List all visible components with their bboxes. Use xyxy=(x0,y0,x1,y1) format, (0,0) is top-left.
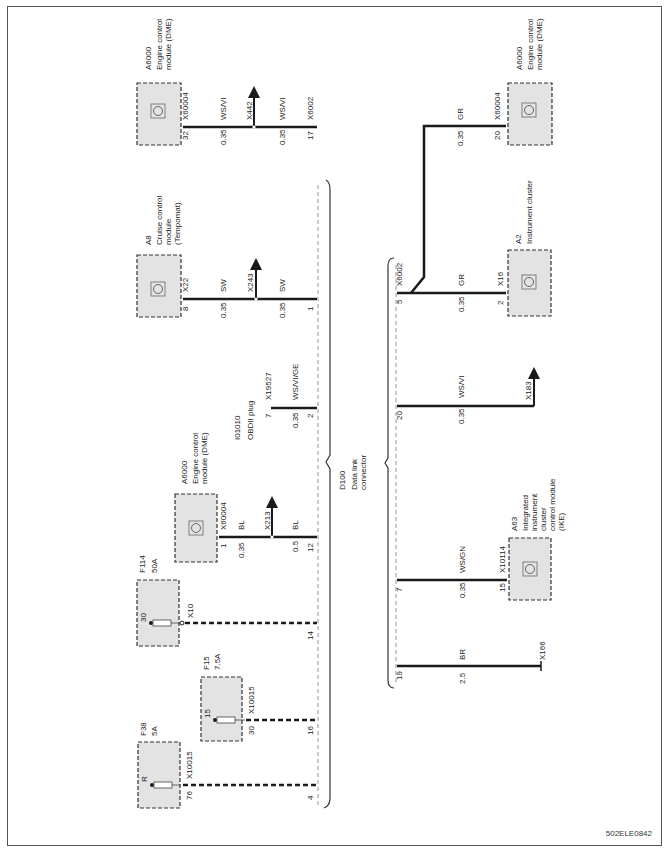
label-wire-color: WS/VI/GE xyxy=(291,364,300,400)
label-connector-name: Data link xyxy=(350,458,359,490)
label-wire-color: WS/VI xyxy=(457,375,466,398)
label-component-name: module xyxy=(164,218,173,245)
label-component-name: Instrument cluster xyxy=(525,180,534,244)
label-terminal: X166 xyxy=(538,641,547,660)
label-component-name: module (DME) xyxy=(200,432,209,484)
fuse-icon xyxy=(154,782,172,788)
figure-id: 502ELE0842 xyxy=(606,829,652,838)
label-connector: X22 xyxy=(181,277,190,292)
label-pin: 8 xyxy=(181,306,190,311)
branch-a63 xyxy=(397,538,551,600)
label-pin: 2 xyxy=(496,300,505,305)
label-connector: X60004 xyxy=(181,92,190,120)
label-bus-pin: 5 xyxy=(395,299,404,304)
label-component-name: instrument xyxy=(530,493,539,531)
branch-x166 xyxy=(397,661,541,671)
label-splice: X183 xyxy=(524,381,533,400)
label-component-name: (Tempomat) xyxy=(173,202,182,245)
label-bus-pin: 19 xyxy=(395,671,404,680)
label-bus-connector: X6002 xyxy=(306,96,315,120)
splice-point xyxy=(254,297,257,300)
wire-gr-to-a6000[interactable] xyxy=(411,126,506,293)
label-wire-color: BL xyxy=(237,520,246,530)
fuse-box-f15[interactable] xyxy=(201,677,242,741)
branch-f114 xyxy=(137,580,317,646)
label-connector: X10015 xyxy=(247,686,256,714)
label-component-id: A8 xyxy=(144,235,153,245)
label-component-name: Engine control xyxy=(191,433,200,484)
label-component-name: (IKE) xyxy=(557,512,566,531)
fuse-box-f114[interactable] xyxy=(137,580,179,646)
component-box-a8[interactable] xyxy=(137,255,181,317)
label-component-name: cluster xyxy=(539,507,548,531)
label-wire-size: 0.35 xyxy=(458,582,467,598)
label-bus-pin: 4 xyxy=(306,795,315,800)
label-connector: X10114 xyxy=(498,545,507,573)
fuse-box-f38[interactable] xyxy=(138,742,180,808)
fuse-terminal xyxy=(213,718,217,722)
label-component-name: Engine control xyxy=(526,19,535,70)
label-wire-color: SW xyxy=(219,279,228,292)
label-fuse-pin: 15 xyxy=(203,709,212,718)
label-wire-size: 0.35 xyxy=(457,408,466,424)
label-component-name: module (DME) xyxy=(535,18,544,70)
label-wire-size: 0.35 xyxy=(278,302,287,318)
label-splice: X243 xyxy=(246,273,255,292)
label-component-name: module (DME) xyxy=(164,18,173,70)
label-wire-size: 0.35 xyxy=(457,296,466,312)
label-connector: X10 xyxy=(186,603,195,618)
label-connector: X10015 xyxy=(185,751,194,779)
label-wire-color: SW xyxy=(278,279,287,292)
label-bus-pin: 16 xyxy=(306,726,315,735)
label-pin: 20 xyxy=(493,131,502,140)
label-pin: 30 xyxy=(247,726,256,735)
label-splice: X442 xyxy=(245,101,254,120)
label-fuse-rating: 5A xyxy=(150,726,159,736)
label-fuse-pin: R xyxy=(140,776,149,782)
component-box-a6000-top[interactable] xyxy=(137,83,181,145)
label-wire-color: WS/GN xyxy=(458,546,467,573)
label-fuse-pin: 30 xyxy=(139,613,148,622)
splice-point xyxy=(270,535,273,538)
label-component-id: A6000 xyxy=(515,46,524,70)
label-bus-pin: 1 xyxy=(306,306,315,311)
left-group-brace xyxy=(324,180,330,808)
label-bus-pin: 14 xyxy=(306,631,315,640)
label-component-id: A63 xyxy=(510,516,519,531)
fuse-terminal xyxy=(149,621,153,625)
label-bus-pin: 20 xyxy=(395,411,404,420)
label-pin: 7 xyxy=(264,413,273,418)
label-connector: X19527 xyxy=(264,372,273,400)
label-component-name: OBDII plug xyxy=(246,401,255,440)
label-component-name: Engine control xyxy=(155,19,164,70)
fuse-icon xyxy=(153,620,171,626)
label-wire-size: 0.35 xyxy=(219,129,228,145)
fuse-icon xyxy=(217,717,235,723)
label-wire-color: GR xyxy=(457,274,466,286)
label-fuse-id: F38 xyxy=(139,722,148,736)
label-wire-color: WS/VI xyxy=(219,97,228,120)
right-group-brace xyxy=(385,258,394,688)
label-pin: 15 xyxy=(498,583,507,592)
label-pin: 76 xyxy=(185,791,194,800)
label-component-name: Cruise control xyxy=(155,195,164,245)
wiring-diagram: A6000 Engine control module (DME) X60004… xyxy=(0,0,670,852)
component-box-a6000-mid[interactable] xyxy=(175,494,217,562)
label-wire-size: 2.5 xyxy=(458,672,467,684)
component-box-a2[interactable] xyxy=(508,250,551,316)
component-box-a63[interactable] xyxy=(509,538,551,600)
label-connector-name: connector xyxy=(359,455,368,490)
label-pin: 32 xyxy=(181,131,190,140)
splice-point xyxy=(252,125,255,128)
label-component-id: A6000 xyxy=(144,46,153,70)
label-connector: X60004 xyxy=(219,502,228,530)
label-wire-color: WS/VI xyxy=(278,97,287,120)
label-connector: X16 xyxy=(496,271,505,286)
label-wire-color: GR xyxy=(456,108,465,120)
label-wire-size: 0.35 xyxy=(456,130,465,146)
label-wire-size: 0.35 xyxy=(278,129,287,145)
branch-f15 xyxy=(201,677,317,741)
label-wire-size: 0.35 xyxy=(237,542,246,558)
label-fuse-rating: 7.5A xyxy=(213,653,222,670)
label-fuse-id: F15 xyxy=(202,656,211,670)
